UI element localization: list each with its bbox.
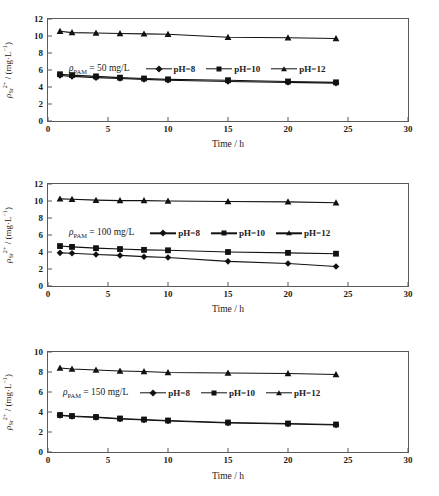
square-marker-icon	[93, 246, 99, 252]
y-tick-label: 8	[39, 367, 44, 376]
x-tick-label: 30	[404, 456, 413, 465]
x-tick-label: 5	[106, 125, 111, 134]
square-marker-icon	[117, 415, 123, 421]
chart-panel-50: ρSr2+ / (mg·L−1) 024681012051015202530 ρ…	[0, 0, 439, 165]
y-tick-label: 10	[34, 32, 43, 41]
chart-panel-100: ρSr2+ / (mg·L−1) 024681012051015202530 ρ…	[0, 165, 439, 330]
x-tick-label: 10	[164, 456, 173, 465]
plot-area: 024681012051015202530	[47, 183, 409, 287]
y-tick-label: 4	[39, 248, 44, 257]
diamond-marker-icon	[333, 263, 340, 270]
y-tick-label: 12	[34, 180, 43, 189]
y-tick-label: 0	[39, 117, 44, 126]
series-layer	[48, 19, 408, 121]
x-tick-label: 0	[46, 125, 51, 134]
y-tick-label: 6	[39, 387, 44, 396]
y-tick-label: 2	[39, 427, 44, 436]
square-marker-icon	[225, 77, 231, 83]
square-marker-icon	[333, 251, 339, 257]
x-tick-label: 20	[284, 125, 293, 134]
diamond-marker-icon	[165, 255, 172, 262]
series-layer	[48, 352, 408, 452]
diamond-marker-icon	[57, 250, 64, 257]
y-tick-label: 2	[39, 100, 44, 109]
chart-panel-150: ρSr2+ / (mg·L−1) 0246810051015202530 ρPA…	[0, 331, 439, 496]
series-line	[60, 253, 336, 267]
series-line	[60, 31, 336, 38]
square-marker-icon	[333, 79, 339, 85]
square-marker-icon	[69, 413, 75, 419]
x-tick-label: 30	[404, 290, 413, 299]
y-tick-label: 12	[34, 15, 43, 24]
square-marker-icon	[117, 246, 123, 252]
y-tick-label: 6	[39, 66, 44, 75]
series-line	[60, 368, 336, 375]
y-tick-label: 8	[39, 49, 44, 58]
square-marker-icon	[93, 73, 99, 79]
x-tick-label: 5	[106, 456, 111, 465]
x-tick-label: 5	[106, 290, 111, 299]
square-marker-icon	[333, 421, 339, 427]
square-marker-icon	[141, 76, 147, 82]
y-tick-label: 2	[39, 265, 44, 274]
plot-area: 0246810051015202530	[47, 351, 409, 453]
x-tick-label: 15	[224, 125, 233, 134]
x-tick-label: 10	[164, 290, 173, 299]
square-marker-icon	[285, 79, 291, 85]
y-tick-label: 8	[39, 214, 44, 223]
square-marker-icon	[57, 71, 63, 77]
square-marker-icon	[57, 412, 63, 418]
series-line	[60, 415, 336, 425]
x-axis-label: Time / h	[212, 140, 244, 150]
diamond-marker-icon	[69, 250, 76, 257]
series-line	[60, 246, 336, 254]
y-tick-label: 0	[39, 282, 44, 291]
series-line	[60, 199, 336, 203]
triangle-marker-icon	[57, 28, 64, 34]
x-tick-label: 25	[344, 290, 353, 299]
x-tick-label: 20	[284, 456, 293, 465]
x-tick-label: 25	[344, 456, 353, 465]
x-tick-label: 0	[46, 290, 51, 299]
square-marker-icon	[117, 75, 123, 81]
figure-container: ρSr2+ / (mg·L−1) 024681012051015202530 ρ…	[0, 0, 439, 496]
y-axis-label: ρSr2+ / (mg·L−1)	[2, 374, 15, 430]
series-ph12	[57, 28, 340, 41]
diamond-marker-icon	[93, 252, 100, 259]
x-tick-label: 0	[46, 456, 51, 465]
x-tick-label: 30	[404, 125, 413, 134]
diamond-marker-icon	[117, 252, 124, 259]
series-layer	[48, 184, 408, 286]
plot-area: 024681012051015202530	[47, 18, 409, 122]
y-tick-label: 0	[39, 447, 44, 456]
y-tick-label: 4	[39, 83, 44, 92]
triangle-marker-icon	[57, 364, 64, 370]
square-marker-icon	[285, 420, 291, 426]
square-marker-icon	[225, 419, 231, 425]
x-tick-label: 25	[344, 125, 353, 134]
series-ph12	[57, 364, 340, 377]
series-ph12	[57, 196, 340, 206]
diamond-marker-icon	[285, 260, 292, 267]
square-marker-icon	[141, 416, 147, 422]
y-tick-label: 10	[34, 347, 43, 356]
x-axis-label: Time / h	[212, 472, 244, 482]
series-ph10	[57, 412, 339, 427]
x-tick-label: 20	[284, 290, 293, 299]
diamond-marker-icon	[141, 254, 148, 261]
square-marker-icon	[165, 417, 171, 423]
y-tick-label: 10	[34, 197, 43, 206]
square-marker-icon	[69, 72, 75, 78]
square-marker-icon	[165, 248, 171, 254]
y-tick-label: 4	[39, 407, 44, 416]
square-marker-icon	[285, 250, 291, 256]
x-axis-label: Time / h	[212, 305, 244, 315]
square-marker-icon	[93, 414, 99, 420]
y-tick-label: 6	[39, 231, 44, 240]
square-marker-icon	[141, 247, 147, 253]
x-tick-label: 15	[224, 290, 233, 299]
y-axis-label: ρSr2+ / (mg·L−1)	[2, 42, 15, 98]
square-marker-icon	[57, 243, 63, 249]
square-marker-icon	[69, 244, 75, 250]
x-tick-label: 15	[224, 456, 233, 465]
